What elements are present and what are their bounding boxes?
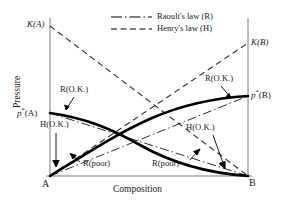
p-star-a-subject: (A) xyxy=(25,108,38,118)
k-a-label: K(A) xyxy=(27,20,45,29)
raoult-henry-law-figure: Raoult's law (R) Henry's law (H) Composi… xyxy=(0,0,291,205)
annotation-h-ok-right: H(O.K.) xyxy=(186,123,215,132)
annotation-r-poor-left: R(poor) xyxy=(83,159,110,168)
legend-label-raoult: Raoult's law (R) xyxy=(157,12,213,21)
annotation-r-ok-left: R(O.K.) xyxy=(60,85,88,94)
annotation-r-poor-right: R(poor) xyxy=(152,159,179,168)
x-axis-title: Composition xyxy=(113,185,162,195)
henry-law-line-a xyxy=(50,26,248,176)
annotation-r-ok-right: R(O.K.) xyxy=(205,74,233,83)
henry-law-line-b xyxy=(50,43,248,176)
y-axis-title: Pressure xyxy=(12,76,22,108)
p-star-b-label: p*(B) xyxy=(251,89,271,100)
raoult-law-line-a xyxy=(50,113,248,176)
legend-label-henry: Henry's law (H) xyxy=(157,24,212,33)
composition-endpoint-a: A xyxy=(42,179,49,189)
composition-endpoint-b: B xyxy=(249,178,256,188)
p-star-b-subject: (B) xyxy=(259,90,271,100)
raoult-law-line-b xyxy=(50,96,248,176)
k-b-label: K(B) xyxy=(251,38,269,47)
legend-sample-lines xyxy=(111,17,152,29)
annotation-h-ok-left: H(O.K.) xyxy=(40,120,69,129)
p-star-a-label: p*(A) xyxy=(17,107,37,118)
plot-canvas xyxy=(0,0,291,205)
